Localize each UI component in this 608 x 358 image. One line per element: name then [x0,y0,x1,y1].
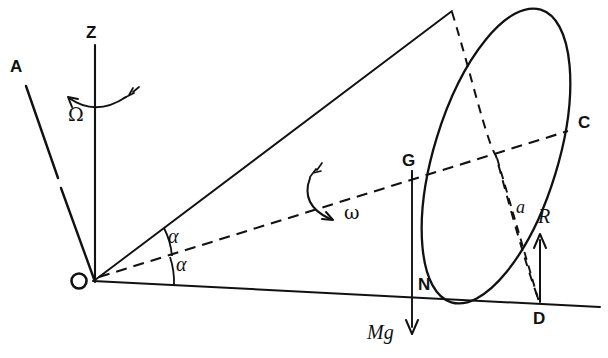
oa-line-lower-segment [61,188,94,279]
diagram-canvas [0,0,608,358]
label-precession-omega-capital: Ω [68,105,84,124]
label-axis-a: A [10,58,22,75]
origin-marker-o [72,274,87,289]
cone-upper-generator [95,11,452,280]
precession-arrow-tail-right [124,87,139,98]
physics-diagram-figure: A Z Ω ω α α C G N D a R Mg [0,0,608,358]
label-radius-a: a [516,198,525,216]
alpha-arc-lower [170,257,174,285]
label-normal-n: N [418,276,430,293]
spin-arrow-tail [310,163,322,177]
label-axis-c: C [578,114,590,131]
oa-line-upper-segment [26,86,58,178]
disk-outline-ellipse [392,0,600,320]
disk-body [392,0,600,320]
symmetry-axis-oc-dashed [99,131,568,277]
label-center-g: G [402,152,415,169]
label-reaction-r: R [538,206,550,226]
label-alpha-lower: α [176,254,187,274]
label-weight-mg: Mg [367,322,394,342]
label-contact-d: D [533,310,545,327]
label-spin-omega: ω [344,203,360,222]
label-axis-z: Z [86,24,96,41]
label-alpha-upper: α [168,226,179,246]
ground-plane-line [93,281,600,307]
